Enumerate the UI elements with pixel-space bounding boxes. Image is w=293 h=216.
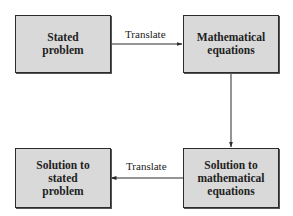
edge-label-translate-bottom: Translate (126, 160, 167, 172)
node-mathematical-equations: Mathematical equations (183, 15, 279, 73)
flowchart-diagram: Stated problem Mathematical equations So… (0, 0, 293, 216)
edge-label-translate-top: Translate (125, 28, 166, 40)
node-label: Solution to stated problem (36, 159, 89, 198)
node-label: Stated problem (42, 31, 83, 57)
node-stated-problem: Stated problem (15, 15, 111, 73)
node-solution-to-stated-problem: Solution to stated problem (15, 148, 111, 208)
node-solution-to-mathematical-equations: Solution to mathematical equations (183, 148, 279, 208)
node-label: Solution to mathematical equations (197, 159, 264, 198)
node-label: Mathematical equations (197, 31, 265, 57)
